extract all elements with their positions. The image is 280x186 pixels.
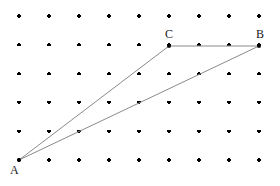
- vertex-label-c: C: [165, 28, 173, 40]
- grid-dot: [257, 14, 260, 17]
- grid-dot: [197, 14, 200, 17]
- grid-dot: [17, 72, 20, 75]
- grid-dot: [17, 43, 20, 46]
- grid-dot: [77, 14, 80, 17]
- vertex-label-b: B: [256, 28, 264, 40]
- triangle-edge-ac: [19, 46, 169, 160]
- grid-dot: [167, 130, 170, 133]
- vertex-marker-c: [167, 44, 171, 48]
- grid-dot: [17, 101, 20, 104]
- grid-dot: [47, 72, 50, 75]
- grid-dot: [257, 130, 260, 133]
- grid-dot: [47, 101, 50, 104]
- grid-dot: [167, 14, 170, 17]
- grid-dot: [257, 72, 260, 75]
- grid-dot: [107, 14, 110, 17]
- grid-dot: [17, 14, 20, 17]
- grid-dot: [167, 72, 170, 75]
- grid-dot: [227, 72, 230, 75]
- vertex-marker-a: [17, 158, 21, 162]
- vertex-marker-b: [257, 44, 261, 48]
- grid-dot: [47, 158, 50, 161]
- grid-dot: [107, 130, 110, 133]
- grid-dot: [227, 158, 230, 161]
- grid-dot: [227, 130, 230, 133]
- grid-dot: [227, 101, 230, 104]
- grid-dot: [137, 43, 140, 46]
- grid-dot: [257, 158, 260, 161]
- grid-dot: [167, 158, 170, 161]
- grid-dot: [47, 14, 50, 17]
- grid-dot: [77, 158, 80, 161]
- grid-dot: [77, 43, 80, 46]
- grid-dot: [197, 130, 200, 133]
- dot-grid-layer: [17, 14, 260, 161]
- grid-dot: [227, 14, 230, 17]
- grid-dot: [167, 101, 170, 104]
- grid-dot: [197, 101, 200, 104]
- grid-dot: [107, 43, 110, 46]
- grid-dot: [137, 72, 140, 75]
- grid-dot: [197, 158, 200, 161]
- triangle-edges-layer: [19, 46, 259, 160]
- figure-svg: [0, 0, 280, 186]
- geometry-figure-canvas: ACB: [0, 0, 280, 186]
- grid-dot: [47, 130, 50, 133]
- grid-dot: [137, 130, 140, 133]
- grid-dot: [137, 158, 140, 161]
- triangle-edge-ab: [19, 46, 259, 160]
- grid-dot: [107, 158, 110, 161]
- grid-dot: [107, 72, 110, 75]
- grid-dot: [47, 43, 50, 46]
- grid-dot: [257, 101, 260, 104]
- grid-dot: [107, 101, 110, 104]
- grid-dot: [77, 101, 80, 104]
- grid-dot: [17, 130, 20, 133]
- vertex-label-a: A: [10, 164, 19, 176]
- grid-dot: [137, 14, 140, 17]
- grid-dot: [77, 72, 80, 75]
